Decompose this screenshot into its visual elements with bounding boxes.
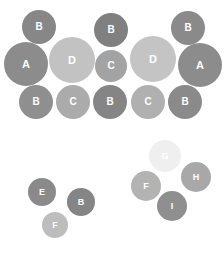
bubble-label: H xyxy=(193,173,200,182)
bubble-label: I xyxy=(171,202,174,211)
bubble-h[interactable]: H xyxy=(181,162,211,192)
bubble-label: G xyxy=(161,152,168,161)
bubble-f[interactable]: F xyxy=(131,171,161,201)
bubble-diagram-canvas: AABBBBBBCCCDD EBF GFHI xyxy=(0,0,224,254)
bubble-i[interactable]: I xyxy=(157,191,187,221)
cluster-lower-right: GFHI xyxy=(0,0,224,254)
bubble-label: F xyxy=(143,182,149,191)
bubble-g[interactable]: G xyxy=(149,140,181,172)
